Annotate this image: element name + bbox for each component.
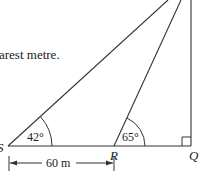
- point-label-s: S: [0, 140, 4, 155]
- line-from-s: [8, 0, 168, 146]
- angle-label-s: 42°: [27, 130, 44, 144]
- angle-label-r: 65°: [122, 130, 139, 144]
- right-angle-marker: [182, 137, 191, 146]
- arrow-left-icon: [10, 161, 17, 166]
- line-from-r: [114, 0, 181, 146]
- point-label-q: Q: [189, 148, 199, 163]
- question-text: arest metre.: [0, 47, 60, 62]
- dimension-label: 60 m: [46, 156, 71, 170]
- triangle-diagram: arest metre. 42° 65° S R Q 60 m: [0, 0, 202, 183]
